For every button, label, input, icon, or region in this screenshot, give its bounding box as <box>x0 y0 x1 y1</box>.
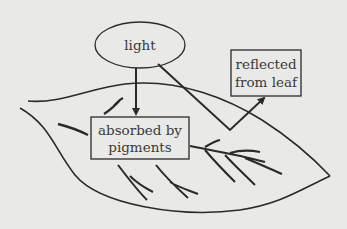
light-node: light <box>95 22 185 68</box>
reflected-label-line1: reflected <box>235 56 296 72</box>
leaf-vein <box>118 165 153 200</box>
reflected-label-line2: from leaf <box>235 74 298 90</box>
leaf-light-diagram: light absorbed by pigments reflected fro… <box>0 0 347 229</box>
leaf-vein <box>190 140 282 174</box>
leaf-vein <box>156 165 198 198</box>
absorbed-label-line1: absorbed by <box>98 122 182 138</box>
reflected-node: reflected from leaf <box>231 50 301 96</box>
leaf-vein <box>104 98 123 114</box>
absorbed-node: absorbed by pigments <box>91 117 189 159</box>
leaf-vein <box>58 124 88 135</box>
light-label: light <box>124 37 156 53</box>
absorbed-label-line2: pigments <box>108 139 172 155</box>
leaf-vein <box>205 150 255 185</box>
